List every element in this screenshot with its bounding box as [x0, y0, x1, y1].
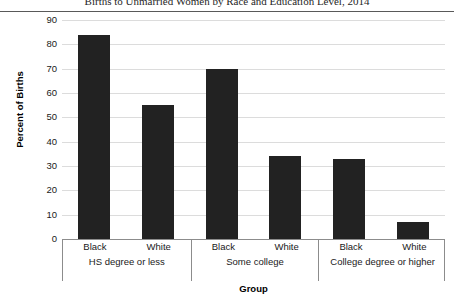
sub-label-white: White [127, 241, 191, 252]
bar-hs-degree-or-less-black[interactable] [78, 35, 110, 239]
bar-some-college-white[interactable] [269, 156, 301, 239]
sub-label-black: Black [192, 241, 255, 252]
bar-hs-degree-or-less-white[interactable] [142, 105, 174, 239]
sub-label-white: White [255, 241, 318, 252]
y-axis-tick-label: 60 [31, 87, 57, 98]
y-axis-tick-label: 30 [31, 160, 57, 171]
category-group: BlackWhiteSome college [191, 239, 319, 281]
title-divider [0, 11, 454, 12]
bar-some-college-black[interactable] [206, 69, 238, 239]
group-label: Some college [192, 256, 319, 267]
plot-area: 9080706050403020100 [62, 20, 445, 239]
sub-label-black: Black [319, 241, 382, 252]
category-group: BlackWhiteCollege degree or higher [318, 239, 446, 281]
group-label: College degree or higher [319, 256, 446, 267]
sub-label-black: Black [63, 241, 127, 252]
y-axis-tick-label: 20 [31, 184, 57, 195]
sub-labels: BlackWhite [319, 241, 446, 252]
category-label-box: BlackWhiteHS degree or lessBlackWhiteSom… [62, 239, 445, 281]
bars-layer [62, 20, 445, 239]
y-axis-tick-label: 80 [31, 38, 57, 49]
y-axis-tick-label: 90 [31, 14, 57, 25]
category-group: BlackWhiteHS degree or less [63, 239, 191, 281]
y-axis-tick-label: 70 [31, 63, 57, 74]
x-axis-title: Group [62, 283, 445, 294]
bar-college-degree-or-higher-black[interactable] [333, 159, 365, 239]
bar-college-degree-or-higher-white[interactable] [397, 222, 429, 239]
sub-labels: BlackWhite [192, 241, 319, 252]
group-label: HS degree or less [63, 256, 191, 267]
chart-figure: Births to Unmarried Women by Race and Ed… [0, 0, 454, 301]
y-axis-title: Percent of Births [14, 50, 25, 170]
sub-labels: BlackWhite [63, 241, 191, 252]
chart-title: Births to Unmarried Women by Race and Ed… [0, 0, 454, 7]
y-axis-tick-label: 40 [31, 136, 57, 147]
y-axis-tick-label: 10 [31, 209, 57, 220]
y-axis-tick-label: 50 [31, 111, 57, 122]
y-axis-tick-label: 0 [31, 233, 57, 244]
sub-label-white: White [383, 241, 446, 252]
